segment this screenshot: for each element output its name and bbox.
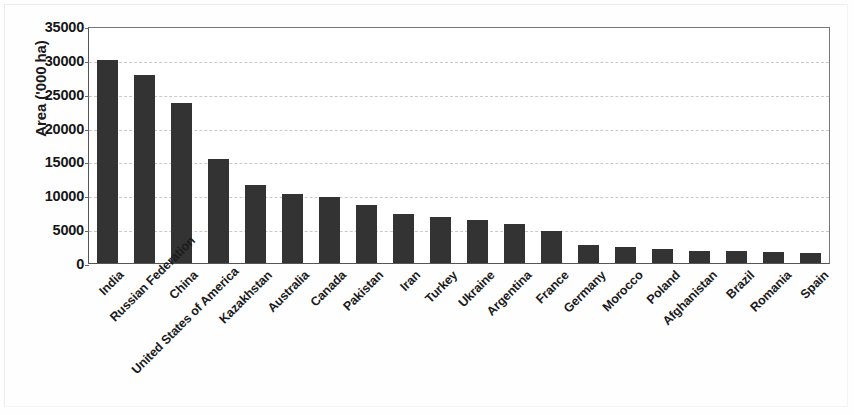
bar[interactable] [97, 60, 118, 263]
bar[interactable] [467, 220, 488, 263]
bar-slot [755, 28, 792, 263]
bar-slot [200, 28, 237, 263]
bar-slot [570, 28, 607, 263]
bar[interactable] [578, 245, 599, 263]
x-axis-tick-labels: IndiaRussian FederationChinaUnited State… [88, 268, 830, 388]
bar[interactable] [726, 251, 747, 263]
bar[interactable] [208, 159, 229, 263]
bar[interactable] [541, 231, 562, 264]
bar-slot [126, 28, 163, 263]
x-tick-label: India [96, 268, 126, 298]
bar[interactable] [800, 253, 821, 263]
bar-slot [533, 28, 570, 263]
bar[interactable] [282, 194, 303, 263]
bar-slot [792, 28, 829, 263]
bar-slot [385, 28, 422, 263]
bar-slot [422, 28, 459, 263]
bar-slot [237, 28, 274, 263]
bar-series [89, 28, 829, 263]
bar[interactable] [689, 251, 710, 263]
bar-slot [681, 28, 718, 263]
bar[interactable] [134, 75, 155, 263]
bar[interactable] [504, 224, 525, 263]
y-tick-label: 15000 [30, 154, 84, 170]
bar-chart-figure: Area ('000 ha) 0500010000150002000025000… [0, 0, 854, 415]
bar-slot [718, 28, 755, 263]
bar[interactable] [356, 205, 377, 263]
y-tick-label: 25000 [30, 87, 84, 103]
plot-area [88, 27, 830, 264]
bar-slot [311, 28, 348, 263]
bar-slot [163, 28, 200, 263]
bar-slot [459, 28, 496, 263]
bar-slot [274, 28, 311, 263]
y-tick-label: 35000 [30, 19, 84, 35]
bar-slot [607, 28, 644, 263]
y-tick-mark [85, 265, 89, 266]
bar[interactable] [615, 247, 636, 263]
y-tick-label: 30000 [30, 53, 84, 69]
bar-slot [496, 28, 533, 263]
bar[interactable] [430, 217, 451, 263]
y-axis-tick-labels: 05000100001500020000250003000035000 [30, 27, 84, 264]
y-tick-label: 10000 [30, 188, 84, 204]
bar-slot [348, 28, 385, 263]
bar-slot [644, 28, 681, 263]
y-tick-label: 5000 [30, 222, 84, 238]
bar[interactable] [393, 214, 414, 263]
bar-slot [89, 28, 126, 263]
bar[interactable] [763, 252, 784, 264]
y-tick-label: 20000 [30, 121, 84, 137]
y-tick-label: 0 [30, 256, 84, 272]
bar[interactable] [319, 197, 340, 263]
bar[interactable] [652, 249, 673, 263]
bar[interactable] [245, 185, 266, 263]
